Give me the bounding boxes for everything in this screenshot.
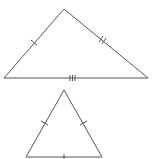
equilateral-triangle-outline [26,90,102,157]
equilateral-triangle [26,90,102,159]
scalene-triangle [4,9,148,81]
triangles-diagram [0,0,153,159]
scalene-triangle-outline [4,9,148,78]
